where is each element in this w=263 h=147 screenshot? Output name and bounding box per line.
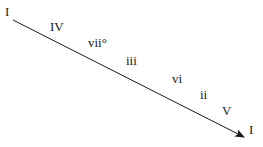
chord-label: IV bbox=[50, 19, 64, 34]
chord-label: V bbox=[222, 103, 232, 118]
progression-arrow bbox=[13, 20, 244, 137]
progression-diagram: I IV vii° iii vi ii V I bbox=[0, 0, 263, 147]
start-chord-label: I bbox=[5, 4, 9, 19]
chord-label: vi bbox=[172, 71, 183, 86]
chord-label: vii° bbox=[88, 35, 107, 50]
chord-label: ii bbox=[200, 87, 208, 102]
chord-label: iii bbox=[126, 53, 137, 68]
end-chord-label: I bbox=[249, 122, 253, 137]
